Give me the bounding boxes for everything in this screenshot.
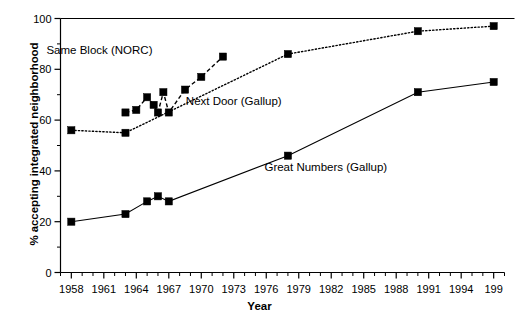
x-tick-label: 1973 [222,283,246,295]
y-tick-label: 40 [39,165,51,177]
y-tick-label: 60 [39,114,51,126]
data-point-marker [198,73,205,80]
data-point-marker [133,106,140,113]
x-tick-label: 1985 [351,283,375,295]
series-annotations: Same Block (NORC)Next Door (Gallup)Great… [46,44,387,173]
data-point-marker [181,86,188,93]
series-annotation-label: Next Door (Gallup) [186,95,282,107]
data-point-marker [219,53,226,60]
data-point-marker [154,193,161,200]
y-axis-title: % accepting integrated neighborhood [28,14,40,274]
x-tick-label: 1970 [189,283,213,295]
series-annotation-label: Great Numbers (Gallup) [264,161,387,173]
data-point-marker [154,109,161,116]
data-point-marker [68,127,75,134]
series-line-2 [71,82,493,222]
x-tick-label: 1958 [59,283,83,295]
x-tick-label: 1961 [92,283,116,295]
x-tick-label: 1994 [449,283,473,295]
data-point-marker [122,129,129,136]
data-point-marker [68,218,75,225]
data-point-marker [144,198,151,205]
data-point-marker [144,94,151,101]
data-point-marker [160,89,167,96]
data-point-marker [414,28,421,35]
y-tick-label: 80 [39,63,51,75]
chart-plot-area: 0204060801001958196119641967197019731976… [0,0,519,325]
x-tick-label: 1979 [287,283,311,295]
x-tick-label: 1988 [384,283,408,295]
y-tick-label: 0 [45,267,51,279]
x-tick-label: 1976 [254,283,278,295]
x-tick-label: 1991 [416,283,440,295]
x-tick-label: 1964 [124,283,148,295]
x-tick-label: 1982 [319,283,343,295]
x-tick-label: 1967 [157,283,181,295]
data-point-marker [490,23,497,30]
data-point-marker [122,210,129,217]
data-point-marker [284,152,291,159]
x-tick-label: 199 [484,283,502,295]
x-axis-title: Year [0,300,519,312]
series-annotation-label: Same Block (NORC) [46,44,152,56]
series-line-1 [71,26,493,133]
data-point-marker [150,101,157,108]
data-point-marker [165,198,172,205]
data-point-marker [284,50,291,57]
data-point-marker [122,109,129,116]
chart-figure: 0204060801001958196119641967197019731976… [0,0,519,325]
y-tick-label: 20 [39,216,51,228]
data-point-marker [490,78,497,85]
data-point-marker [414,89,421,96]
